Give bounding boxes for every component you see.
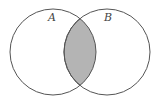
venn-diagram: A B (0, 0, 160, 104)
set-b-label: B (103, 11, 112, 24)
set-a-label: A (47, 11, 56, 24)
